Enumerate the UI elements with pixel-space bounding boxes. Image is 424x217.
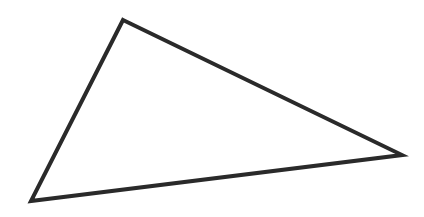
triangle-shape: [31, 20, 402, 201]
triangle-diagram: [0, 0, 424, 217]
